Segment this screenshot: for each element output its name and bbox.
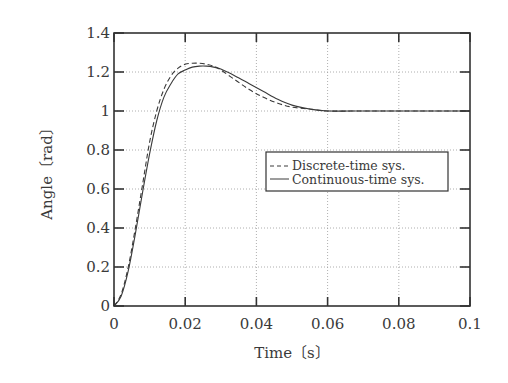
y-tick-label: 0.4	[86, 219, 110, 237]
y-tick-label: 1	[100, 102, 110, 120]
y-tick-label: 0.2	[86, 258, 110, 276]
legend: Discrete-time sys. Continuous-time sys.	[266, 152, 448, 191]
y-tick-label: 0	[100, 297, 110, 315]
y-tick-label: 0.8	[86, 141, 110, 159]
y-tick-labels: 00.20.40.60.811.21.4	[86, 24, 110, 315]
y-tick-label: 0.6	[86, 180, 110, 198]
legend-label-discrete: Discrete-time sys.	[292, 158, 406, 173]
line-chart: 00.020.040.060.080.1 00.20.40.60.811.21.…	[0, 0, 508, 383]
x-tick-label: 0.04	[240, 315, 273, 333]
legend-label-continuous: Continuous-time sys.	[292, 172, 425, 187]
y-tick-label: 1.2	[86, 63, 110, 81]
x-tick-label: 0	[109, 315, 119, 333]
x-axis-title: Time〔s〕	[254, 344, 330, 362]
x-tick-label: 0.08	[382, 315, 415, 333]
x-tick-label: 0.06	[311, 315, 344, 333]
y-axis-title: Angle〔rad〕	[38, 120, 56, 221]
x-tick-label: 0.1	[458, 315, 482, 333]
x-tick-label: 0.02	[168, 315, 201, 333]
y-tick-label: 1.4	[86, 24, 110, 42]
x-tick-labels: 00.020.040.060.080.1	[109, 315, 482, 333]
